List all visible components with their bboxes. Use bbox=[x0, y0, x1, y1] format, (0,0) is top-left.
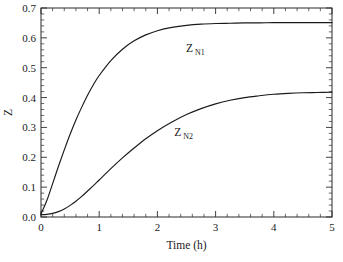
y-tick-label: 0.6 bbox=[22, 32, 36, 44]
y-tick-label: 0.4 bbox=[22, 92, 36, 104]
y-tick-label: 0.3 bbox=[22, 121, 36, 133]
x-tick-label: 3 bbox=[213, 221, 219, 233]
curve-label-main: Z bbox=[174, 126, 181, 138]
x-tick-label: 2 bbox=[155, 221, 161, 233]
curve-label-subscript: N1 bbox=[195, 48, 205, 57]
y-tick-label: 0.2 bbox=[22, 151, 36, 163]
curve-label-main: Z bbox=[186, 42, 193, 54]
curve-annotation-z-n2: ZN2 bbox=[174, 126, 193, 141]
x-tick-label: 0 bbox=[38, 221, 44, 233]
y-tick-label: 0.1 bbox=[22, 181, 36, 193]
y-tick-label: 0.0 bbox=[22, 211, 36, 223]
x-tick-label: 4 bbox=[271, 221, 277, 233]
x-axis-title: Time (h) bbox=[166, 239, 206, 252]
x-tick-label: 1 bbox=[96, 221, 102, 233]
x-tick-label: 5 bbox=[329, 221, 335, 233]
plot-frame bbox=[41, 8, 332, 217]
chart-figure: 0123450.00.10.20.30.40.50.60.7 ZN1ZN2Tim… bbox=[0, 0, 343, 262]
axes-layer: 0123450.00.10.20.30.40.50.60.7 bbox=[22, 2, 335, 233]
curve-label-subscript: N2 bbox=[183, 132, 193, 141]
y-axis-title: Z bbox=[2, 109, 14, 116]
series-line-z-n2 bbox=[41, 92, 332, 214]
line-chart: 0123450.00.10.20.30.40.50.60.7 ZN1ZN2Tim… bbox=[0, 0, 343, 262]
y-tick-label: 0.7 bbox=[22, 2, 36, 14]
y-tick-label: 0.5 bbox=[22, 62, 36, 74]
curve-annotation-z-n1: ZN1 bbox=[186, 42, 205, 57]
